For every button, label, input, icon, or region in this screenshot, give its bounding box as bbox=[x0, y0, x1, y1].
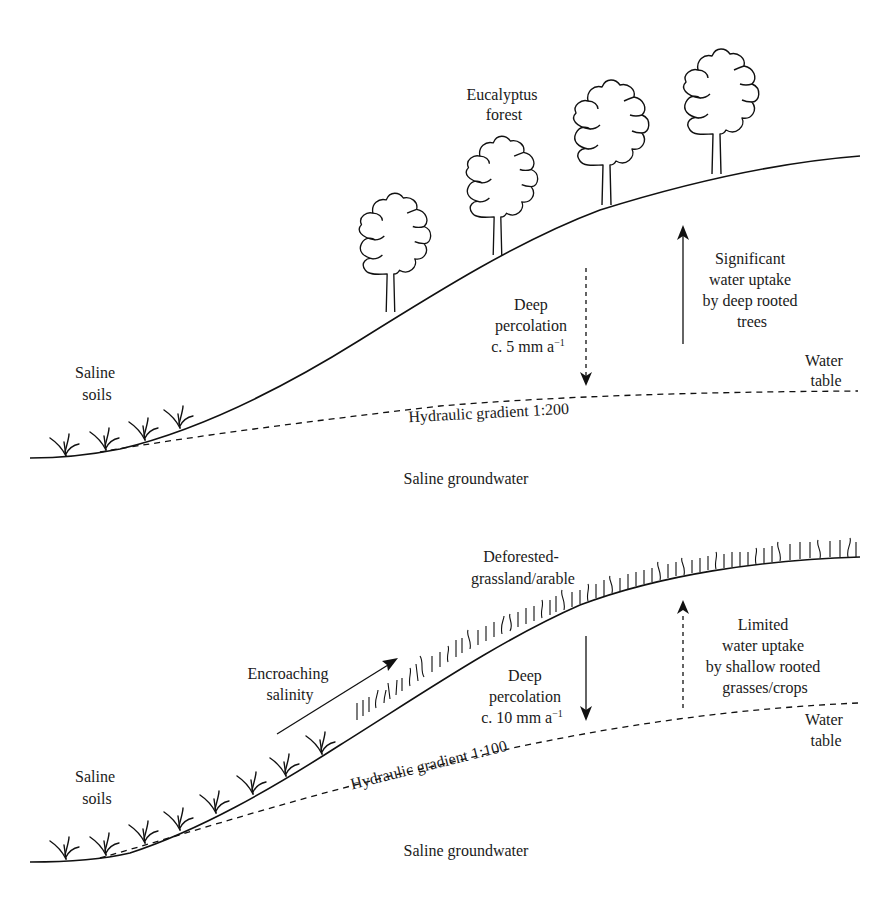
saline-plant-icon bbox=[200, 791, 229, 813]
arrow-up-icon bbox=[677, 600, 689, 614]
top-saline-soils-label: Saline soils bbox=[75, 364, 119, 403]
bottom-hydraulic-gradient-label: Hydraulic gradient 1:100 bbox=[349, 737, 509, 793]
top-uptake-label: Significant water uptake by deep rooted … bbox=[702, 250, 801, 330]
tree-icon bbox=[359, 193, 430, 312]
saline-plant-icon bbox=[164, 406, 193, 428]
top-hydraulic-gradient-label: Hydraulic gradient 1:200 bbox=[408, 400, 570, 426]
tree-icon bbox=[466, 136, 537, 255]
saline-plant-icon bbox=[90, 428, 119, 450]
saline-plant-icon bbox=[129, 821, 158, 843]
top-deep-percolation-label: Deep percolation c. 5 mm a−1 bbox=[491, 296, 571, 355]
tree-icon bbox=[684, 49, 759, 174]
bottom-water-table bbox=[100, 703, 858, 858]
top-panel: Eucalyptus forest Saline soils Deep perc… bbox=[30, 49, 860, 488]
eucalyptus-label: Eucalyptus forest bbox=[466, 86, 541, 123]
saline-plant-icon bbox=[237, 772, 266, 794]
bottom-panel: Encroaching salinity Deforested- grassla… bbox=[30, 538, 860, 862]
bottom-saline-soils-label: Saline soils bbox=[75, 768, 119, 807]
bottom-deep-percolation-label: Deep percolation c. 10 mm a−1 bbox=[481, 667, 565, 726]
bottom-water-table-label: Water table bbox=[805, 711, 847, 749]
arrow-up-right-icon bbox=[382, 658, 398, 671]
saline-plant-icon bbox=[50, 837, 79, 859]
saline-plant-icon bbox=[129, 418, 158, 440]
saline-plant-icon bbox=[164, 808, 193, 830]
bottom-ground-surface bbox=[30, 557, 860, 862]
bottom-saline-groundwater-label: Saline groundwater bbox=[404, 842, 530, 860]
top-saline-groundwater-label: Saline groundwater bbox=[404, 470, 530, 488]
top-water-table-label: Water table bbox=[805, 352, 847, 389]
tree-icon bbox=[574, 80, 649, 205]
saline-plant-icon bbox=[90, 833, 119, 855]
deforested-label: Deforested- grassland/arable bbox=[471, 548, 575, 588]
saline-plant-icon bbox=[50, 434, 79, 456]
salinity-diagram: Eucalyptus forest Saline soils Deep perc… bbox=[0, 0, 888, 902]
bottom-uptake-label: Limited water uptake by shallow rooted g… bbox=[706, 616, 825, 697]
encroaching-salinity-label: Encroaching salinity bbox=[248, 665, 333, 704]
